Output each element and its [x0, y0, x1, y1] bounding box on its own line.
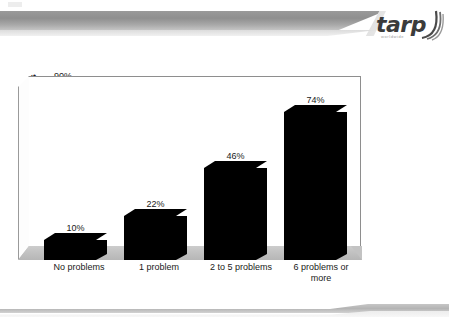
bar-front-face [204, 168, 256, 260]
bar-chart: % Dissatisfied with price or fees 90% 80… [0, 60, 449, 295]
bar-column[interactable]: 74% [284, 112, 336, 260]
bar-side-face [96, 240, 107, 260]
x-axis-label: 6 problems or more [274, 262, 368, 284]
x-axis-label-line: more [274, 273, 368, 284]
tarp-logo: tarp worldwide [374, 8, 442, 48]
x-axis-labels: No problems 1 problem 2 to 5 problems 6 … [18, 262, 368, 294]
bar-top-face [44, 233, 107, 240]
x-axis-label-line: 2 to 5 problems [210, 262, 272, 272]
bar-series: 10% 22% 46% 74% [18, 76, 362, 260]
bar-value-label: 10% [37, 223, 114, 233]
header-decorative-band [0, 11, 385, 30]
x-axis-label: No problems [34, 262, 124, 273]
x-axis-label-line: 6 problems or [293, 262, 348, 272]
bar-side-face [176, 216, 187, 260]
bar-front-face [284, 112, 336, 260]
bar-side-face [256, 168, 267, 260]
bar-front-face [44, 240, 96, 260]
bar-top-face [204, 161, 267, 168]
logo-subtitle: worldwide [381, 34, 404, 39]
bar-value-label: 46% [197, 151, 274, 161]
bar-side-face [336, 112, 347, 260]
bar-column[interactable]: 46% [204, 168, 256, 260]
bar-top-face [124, 209, 187, 216]
bar-value-label: 74% [277, 95, 354, 105]
bar-top-face [284, 105, 347, 112]
bar-column[interactable]: 22% [124, 216, 176, 260]
x-axis-label: 1 problem [114, 262, 204, 273]
x-axis-label-line: 1 problem [139, 262, 179, 272]
bar-column[interactable]: 10% [44, 240, 96, 260]
bar-value-label: 22% [117, 199, 194, 209]
header-band-shadow [0, 30, 381, 36]
header-speck [8, 2, 22, 7]
bar-front-face [124, 216, 176, 260]
x-axis-label-line: No problems [53, 262, 104, 272]
